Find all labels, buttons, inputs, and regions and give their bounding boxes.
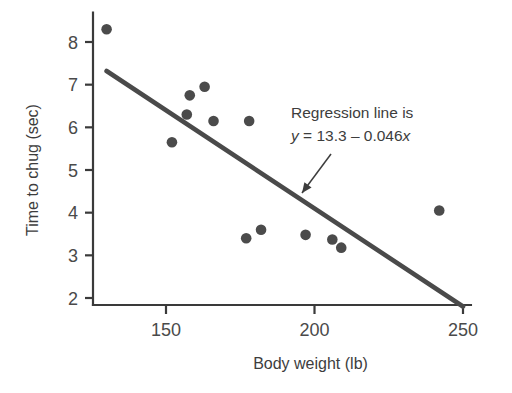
annotation-line-2: y = 13.3 – 0.046x [290,127,412,144]
data-point-6 [244,116,255,127]
data-point-3 [184,90,195,101]
data-point-0 [101,24,112,35]
data-point-2 [181,109,192,120]
data-point-10 [327,234,338,245]
scatter-chart: 2345678150200250Body weight (lb)Time to … [0,0,512,393]
data-point-9 [300,230,311,241]
annotation-equation-body: = 13.3 – 0.046 [299,127,403,144]
annotation-line-1: Regression line is [291,104,414,121]
data-point-1 [167,137,178,148]
y-axis-title: Time to chug (sec) [24,104,41,236]
y-tick-label-8: 8 [68,33,78,53]
y-tick-label-5: 5 [68,161,78,181]
data-point-12 [434,205,445,216]
x-axis-title: Body weight (lb) [253,355,368,372]
y-tick-label-4: 4 [68,203,78,223]
x-tick-label-150: 150 [151,320,181,340]
y-tick-label-7: 7 [68,75,78,95]
data-point-5 [208,116,219,127]
data-point-4 [199,82,210,93]
y-tick-label-2: 2 [68,289,78,309]
chart-canvas: 2345678150200250Body weight (lb)Time to … [0,0,512,393]
data-point-11 [336,242,347,253]
annotation-arrow-head [302,182,312,193]
y-tick-label-3: 3 [68,246,78,266]
annotation-var-x: x [402,127,412,144]
data-point-7 [241,233,252,244]
y-tick-label-6: 6 [68,118,78,138]
data-point-8 [256,224,267,235]
x-tick-label-200: 200 [299,320,329,340]
x-tick-label-250: 250 [448,320,478,340]
